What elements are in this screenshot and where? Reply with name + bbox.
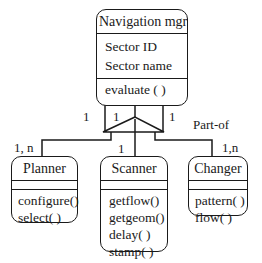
class-methods: configure() select( ) (12, 190, 77, 228)
method: select( ) (18, 209, 71, 226)
method: stamp( ) (109, 243, 161, 260)
multiplicity-scanner-end: 1 (118, 142, 125, 156)
class-methods: getflow() getgeom() delay( ) stamp( ) (101, 190, 167, 262)
class-navigation-mgr[interactable]: Navigation mgr Sector ID Sector name eva… (96, 9, 188, 106)
multiplicity-parent-changer: 1 (169, 110, 176, 124)
class-attributes (12, 181, 77, 190)
class-attributes: Sector ID Sector name (97, 34, 187, 79)
method: delay( ) (109, 226, 161, 243)
class-attributes (189, 181, 247, 190)
multiplicity-parent-scanner: 1 (113, 110, 120, 124)
class-methods: pattern( ) flow( ) (189, 190, 247, 228)
class-changer[interactable]: Changer pattern( ) flow( ) (188, 156, 248, 216)
method: evaluate ( ) (105, 81, 181, 98)
method: flow( ) (195, 209, 241, 226)
class-methods: evaluate ( ) (97, 79, 187, 100)
class-scanner[interactable]: Scanner getflow() getgeom() delay( ) sta… (100, 156, 168, 252)
line-to-changer (155, 132, 212, 157)
method: getgeom() (109, 209, 161, 226)
multiplicity-parent-planner: 1 (83, 110, 90, 124)
class-attributes (101, 181, 167, 190)
class-title: Scanner (101, 157, 167, 181)
class-title: Changer (189, 157, 247, 181)
class-title: Navigation mgr (97, 10, 187, 34)
method: pattern( ) (195, 192, 241, 209)
line-to-planner (42, 132, 111, 157)
method: configure() (18, 192, 71, 209)
relationship-label: Part-of (193, 118, 229, 132)
attribute: Sector ID (105, 37, 179, 56)
class-title: Planner (12, 157, 77, 181)
multiplicity-planner-end: 1, n (14, 141, 34, 155)
method: getflow() (109, 192, 161, 209)
attribute: Sector name (105, 56, 179, 75)
multiplicity-changer-end: 1,n (222, 141, 238, 155)
class-planner[interactable]: Planner configure() select( ) (11, 156, 78, 223)
